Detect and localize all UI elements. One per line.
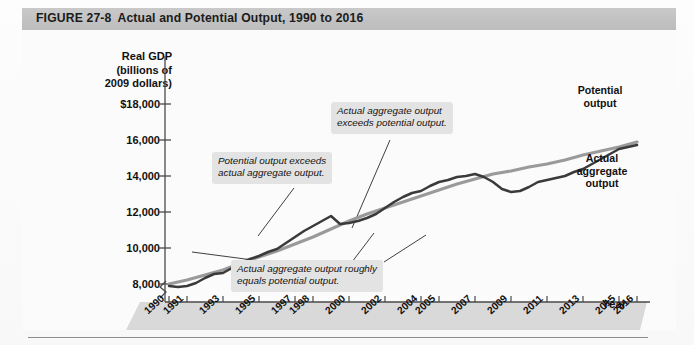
figure-title-band: FIGURE 27-8Actual and Potential Output, … bbox=[22, 8, 676, 30]
annotation-potential-exceeds-actual-line-1: Potential output exceeds bbox=[218, 155, 326, 167]
figure-number: FIGURE 27-8 bbox=[36, 11, 111, 25]
chart-area: Real GDP (billions of 2009 dollars) $18,… bbox=[22, 30, 676, 330]
annotation-actual-exceeds-potential: Actual aggregate output exceeds potentia… bbox=[331, 102, 453, 134]
page-bottom-rule bbox=[28, 337, 648, 338]
annotation-roughly-equals-line-1: Actual aggregate output roughly bbox=[237, 263, 377, 275]
annotation-roughly-equals-line-2: equals potential output. bbox=[237, 275, 377, 287]
figure-title: Actual and Potential Output, 1990 to 201… bbox=[117, 11, 363, 25]
annotation-roughly-equals: Actual aggregate output roughly equals p… bbox=[231, 260, 383, 292]
series-label-actual-output-line-1: Actual bbox=[562, 152, 642, 165]
annotation-potential-exceeds-actual: Potential output exceeds actual aggregat… bbox=[212, 152, 332, 184]
figure-container: FIGURE 27-8Actual and Potential Output, … bbox=[22, 8, 676, 330]
page-title: FIGURE 27-8Actual and Potential Output, … bbox=[36, 11, 363, 25]
series-label-potential-output: Potential output bbox=[560, 84, 640, 109]
series-label-actual-output-line-3: output bbox=[562, 177, 642, 190]
series-label-potential-output-line-2: output bbox=[560, 97, 640, 110]
series-label-actual-output: Actual aggregate output bbox=[562, 152, 642, 190]
annotation-actual-exceeds-potential-line-1: Actual aggregate output bbox=[337, 105, 447, 117]
series-label-potential-output-line-1: Potential bbox=[560, 84, 640, 97]
annotation-actual-exceeds-potential-line-2: exceeds potential output. bbox=[337, 117, 447, 129]
series-label-actual-output-line-2: aggregate bbox=[562, 165, 642, 178]
x-axis-title: Year bbox=[602, 298, 626, 310]
annotation-potential-exceeds-actual-line-2: actual aggregate output. bbox=[218, 167, 326, 179]
